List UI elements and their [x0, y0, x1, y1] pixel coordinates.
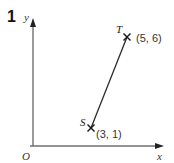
y-axis	[30, 18, 36, 146]
point-s-cross-icon	[88, 125, 95, 132]
x-axis-label: x	[156, 150, 162, 162]
question-number: 1	[7, 8, 16, 25]
y-axis-label: y	[23, 11, 29, 23]
point-t-label: T	[116, 23, 123, 35]
point-t-coords: (5, 6)	[136, 32, 162, 44]
segment-st	[91, 37, 127, 128]
origin-label: O	[22, 150, 30, 162]
point-t-cross-icon	[124, 34, 131, 41]
coordinate-plot: 1 y x O S (3, 1) T (5, 6)	[0, 0, 174, 163]
diagram: 1 y x O S (3, 1) T (5, 6)	[0, 0, 174, 163]
point-s-coords: (3, 1)	[96, 128, 122, 140]
point-s-label: S	[80, 116, 86, 128]
x-axis-arrow-icon	[155, 143, 164, 149]
x-axis	[30, 143, 164, 149]
y-axis-arrow-icon	[30, 18, 36, 27]
